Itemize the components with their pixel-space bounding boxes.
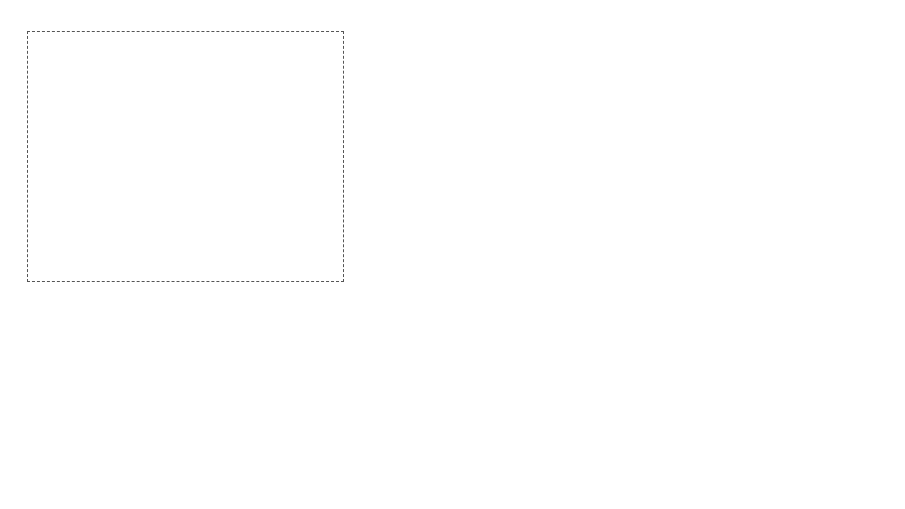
event-instigation-domain [27,31,344,282]
